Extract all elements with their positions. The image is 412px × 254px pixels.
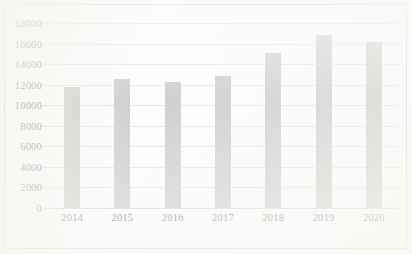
bar xyxy=(165,82,181,208)
y-tick-label: 4000 xyxy=(20,161,42,172)
x-tick-label: 2020 xyxy=(363,212,385,223)
x-tick-label: 2018 xyxy=(262,212,284,223)
bars-layer xyxy=(47,23,399,208)
bar xyxy=(265,53,281,208)
bar xyxy=(316,35,332,208)
y-tick-label: 0 xyxy=(37,203,42,214)
x-tick-label: 2017 xyxy=(212,212,234,223)
y-axis: 0200040006000800010000120001400016000180… xyxy=(0,0,45,254)
y-tick-mark xyxy=(42,208,47,209)
y-tick-label: 8000 xyxy=(20,120,42,131)
bar xyxy=(114,79,130,209)
x-tick-label: 2019 xyxy=(313,212,335,223)
bar xyxy=(366,42,382,209)
x-tick-label: 2015 xyxy=(112,212,134,223)
bar xyxy=(215,76,231,208)
x-tick-label: 2014 xyxy=(61,212,83,223)
y-tick-label: 2000 xyxy=(20,182,42,193)
y-tick-label: 12000 xyxy=(15,79,42,90)
y-tick-label: 16000 xyxy=(15,38,42,49)
bar xyxy=(64,87,80,208)
x-axis: 2014201520162017201820192020 xyxy=(47,212,399,234)
x-tick-label: 2016 xyxy=(162,212,184,223)
y-tick-label: 18000 xyxy=(15,18,42,29)
bar-chart-figure: 0200040006000800010000120001400016000180… xyxy=(0,0,412,254)
y-tick-label: 10000 xyxy=(15,100,42,111)
y-tick-label: 6000 xyxy=(20,141,42,152)
y-tick-label: 14000 xyxy=(15,59,42,70)
axis-baseline xyxy=(47,208,399,209)
